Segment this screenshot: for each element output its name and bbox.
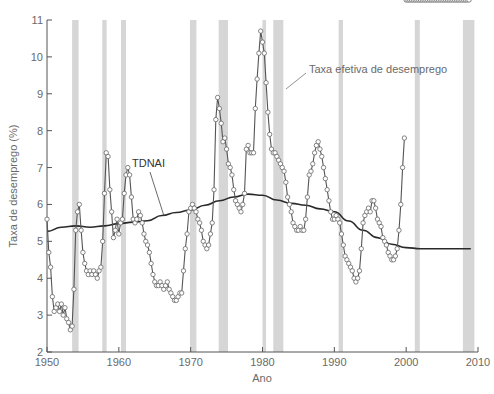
data-point	[147, 250, 151, 254]
data-point	[264, 81, 268, 85]
data-point	[138, 213, 142, 217]
data-point	[399, 202, 403, 206]
data-point	[253, 106, 257, 110]
data-point	[379, 224, 383, 228]
data-point	[223, 136, 227, 140]
data-point	[341, 243, 345, 247]
data-point	[339, 232, 343, 236]
data-point	[75, 210, 79, 214]
data-point	[242, 191, 246, 195]
tdnai-leader-line	[150, 172, 164, 216]
recession-band	[463, 20, 474, 352]
data-point	[113, 228, 117, 232]
data-point	[59, 302, 63, 306]
data-point	[95, 276, 99, 280]
data-point	[99, 265, 103, 269]
data-point	[165, 280, 169, 284]
data-point	[66, 320, 70, 324]
data-point	[197, 221, 201, 225]
data-point	[83, 261, 87, 265]
data-point	[50, 294, 54, 298]
actual-leader-line	[286, 73, 306, 89]
data-point	[338, 221, 342, 225]
data-point	[81, 250, 85, 254]
x-tick-label: 2010	[466, 356, 490, 368]
data-point	[214, 117, 218, 121]
data-point	[402, 136, 406, 140]
data-point	[309, 169, 313, 173]
data-point	[230, 173, 234, 177]
data-point	[77, 202, 81, 206]
tdnai-label: TDNAI	[132, 157, 165, 169]
data-point	[215, 95, 219, 99]
data-point	[284, 180, 288, 184]
y-axis-title: Taxa de desemprego (%)	[7, 125, 19, 248]
data-point	[321, 165, 325, 169]
data-point	[305, 195, 309, 199]
data-point	[120, 217, 124, 221]
data-point	[126, 165, 130, 169]
y-ticks: 234567891011	[31, 14, 52, 358]
data-point	[183, 247, 187, 251]
data-point	[355, 276, 359, 280]
data-point	[323, 176, 327, 180]
data-point	[142, 232, 146, 236]
data-point	[109, 210, 113, 214]
data-point	[115, 217, 119, 221]
data-point	[111, 235, 115, 239]
y-tick-label: 7	[37, 162, 43, 174]
y-tick-label: 10	[31, 51, 43, 63]
actual-label: Taxa efetiva de desemprego	[309, 63, 447, 75]
data-point	[246, 143, 250, 147]
y-tick-label: 5	[37, 235, 43, 247]
data-point	[228, 165, 232, 169]
data-point	[179, 291, 183, 295]
data-point	[262, 51, 266, 55]
data-point	[312, 151, 316, 155]
y-tick-label: 11	[32, 14, 43, 26]
data-point	[327, 199, 331, 203]
data-point	[373, 206, 377, 210]
data-point	[320, 154, 324, 158]
data-point	[384, 243, 388, 247]
data-point	[151, 272, 155, 276]
data-point	[393, 254, 397, 258]
data-point	[108, 187, 112, 191]
data-point	[45, 217, 49, 221]
data-point	[241, 202, 245, 206]
data-point	[251, 151, 255, 155]
data-point	[47, 250, 51, 254]
data-point	[311, 162, 315, 166]
data-point	[117, 232, 121, 236]
x-tick-label: 1960	[107, 356, 131, 368]
data-point	[395, 247, 399, 251]
data-point	[100, 239, 104, 243]
data-point	[372, 199, 376, 203]
data-point	[57, 309, 61, 313]
data-point	[208, 232, 212, 236]
data-point	[359, 247, 363, 251]
data-point	[318, 147, 322, 151]
data-point	[79, 228, 83, 232]
data-point	[260, 40, 264, 44]
data-point	[239, 210, 243, 214]
data-point	[266, 110, 270, 114]
data-point	[303, 217, 307, 221]
y-tick-label: 8	[37, 125, 43, 137]
data-point	[61, 313, 65, 317]
data-point	[255, 77, 259, 81]
data-point	[350, 269, 354, 273]
y-tick-label: 4	[37, 272, 43, 284]
data-point	[217, 106, 221, 110]
data-point	[357, 269, 361, 273]
data-point	[368, 210, 372, 214]
data-point	[106, 154, 110, 158]
y-tick-label: 9	[37, 88, 43, 100]
data-point	[282, 169, 286, 173]
data-point	[212, 187, 216, 191]
data-point	[48, 265, 52, 269]
x-axis-title: Ano	[252, 372, 272, 384]
y-tick-label: 6	[37, 198, 43, 210]
data-point	[135, 217, 139, 221]
data-point	[361, 221, 365, 225]
